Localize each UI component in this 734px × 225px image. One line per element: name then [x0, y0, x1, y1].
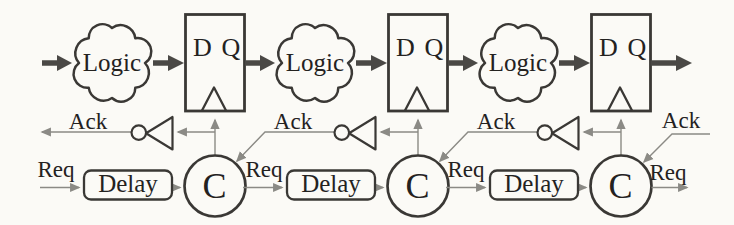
- diagram-canvas: Logic D Q Ack Req Delay C Logic D Q Ack …: [0, 0, 734, 225]
- pipeline-stage-1: Logic D Q Ack Req Delay C: [37, 15, 245, 217]
- stage2-inverter-icon: [349, 117, 376, 150]
- stage1-c-element-label: C: [202, 166, 226, 206]
- stage2-register-q-label: Q: [425, 33, 444, 62]
- stage3-delay-label: Delay: [504, 170, 564, 197]
- stage3-inverter-bubble-icon: [538, 125, 553, 140]
- async-pipeline-diagram: Logic D Q Ack Req Delay C Logic D Q Ack …: [0, 0, 734, 225]
- stage3-inverter-icon: [552, 117, 579, 150]
- stage3-cloud-to-reg-arrowhead-icon: [574, 55, 590, 71]
- stage3-c-element-label: C: [608, 166, 632, 206]
- stage3-ack-label: Ack: [477, 109, 516, 134]
- right-environment-io: Ack Req: [644, 55, 710, 188]
- stage1-register-q-label: Q: [222, 33, 241, 62]
- stage2-delay-label: Delay: [301, 170, 361, 197]
- stage1-req-label: Req: [37, 157, 75, 182]
- stage2-cloud-to-reg-arrowhead-icon: [371, 55, 387, 71]
- stage3-register-q-label: Q: [628, 33, 647, 62]
- stage1-logic-label: Logic: [83, 49, 141, 76]
- stage3-logic-label: Logic: [489, 49, 547, 76]
- stage2-register: [389, 15, 448, 112]
- stage1-data-in-arrowhead-icon: [57, 55, 72, 71]
- stage2-logic-label: Logic: [286, 49, 344, 76]
- stage2-req-label: Req: [245, 157, 283, 182]
- stage2-inverter-bubble-icon: [335, 125, 350, 140]
- stage1-register-d-label: D: [193, 33, 212, 62]
- stage1-ack-label: Ack: [69, 109, 108, 134]
- stage2-data-in-arrowhead-icon: [260, 55, 275, 71]
- stage3-register: [592, 15, 651, 112]
- stage3-req-label: Req: [447, 157, 485, 182]
- ack-in-wire: [644, 134, 710, 162]
- ack-in-label: Ack: [662, 108, 701, 133]
- stage3-data-in-arrowhead-icon: [463, 55, 478, 71]
- stage1-inverter-icon: [146, 117, 173, 150]
- req-out-label: Req: [649, 160, 687, 185]
- stage2-register-d-label: D: [396, 33, 415, 62]
- stage2-c-element-label: C: [405, 166, 429, 206]
- stage3-register-d-label: D: [599, 33, 618, 62]
- stage2-ack-label: Ack: [274, 109, 313, 134]
- stage1-cloud-to-reg-arrowhead-icon: [168, 55, 184, 71]
- stage1-delay-label: Delay: [98, 170, 158, 197]
- pipeline-stage-2: Logic D Q Ack Req Delay C: [237, 15, 449, 217]
- data-out-arrowhead-icon: [676, 55, 692, 71]
- stage1-inverter-bubble-icon: [132, 125, 147, 140]
- stage1-register: [186, 15, 245, 112]
- pipeline-stage-3: Logic D Q Ack Req Delay C: [440, 15, 652, 217]
